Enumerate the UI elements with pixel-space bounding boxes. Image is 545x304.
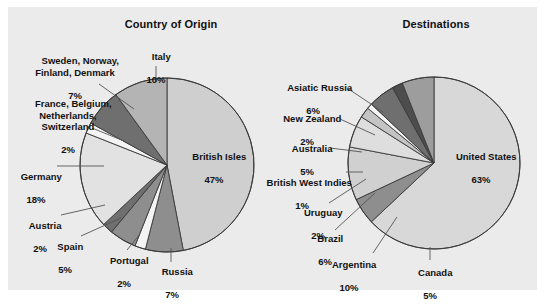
label-canada: Canada 5% [406,256,454,304]
label-canada-name: Canada [418,267,452,278]
label-canada-pct: 5% [406,290,454,301]
label-spain-pct: 5% [46,264,84,275]
label-british-west-indies-name: British West Indies [267,177,352,188]
label-united-states-pct: 63% [442,174,520,185]
label-new-zealand-name: New Zealand [283,113,341,124]
label-united-states-name: United States [456,151,517,162]
label-british-isles: British Isles 47% [178,140,250,208]
label-united-states: United States 63% [442,140,520,208]
label-italy-name: Italy [152,51,171,62]
label-british-isles-name: British Isles [192,151,246,162]
label-portugal-pct: 2% [96,278,152,289]
label-spain: Spain 5% [46,230,84,298]
chart-title-destinations: Destinations [368,18,504,30]
label-argentina-name: Argentina [332,259,376,270]
label-argentina: Argentina 10% [320,248,378,304]
label-russia-pct: 7% [150,289,194,300]
label-russia-name: Russia [162,266,193,277]
label-australia-name: Australia [292,143,333,154]
label-asiatic-russia-name: Asiatic Russia [287,82,352,93]
figure-root: Country of Origin Destinations Italy 10%… [0,0,545,304]
label-british-isles-pct: 47% [178,174,250,185]
chart-title-origin: Country of Origin [96,18,246,30]
label-france-name: France, Belgium, Netherlands, Switzerlan… [35,98,112,132]
label-portugal-name: Portugal [110,255,149,266]
label-germany-name: Germany [21,171,62,182]
label-brazil-name: Brazil [317,233,343,244]
label-russia: Russia 7% [150,255,194,304]
label-germany-pct: 18% [8,194,64,205]
label-uruguay-name: Uruguay [304,207,343,218]
label-sweden-name: Sweden, Norway, Finland, Denmark [35,55,119,77]
label-spain-name: Spain [57,241,83,252]
label-france-pct: 2% [6,144,130,155]
label-portugal: Portugal 2% [96,244,152,304]
label-argentina-pct: 10% [320,282,378,293]
